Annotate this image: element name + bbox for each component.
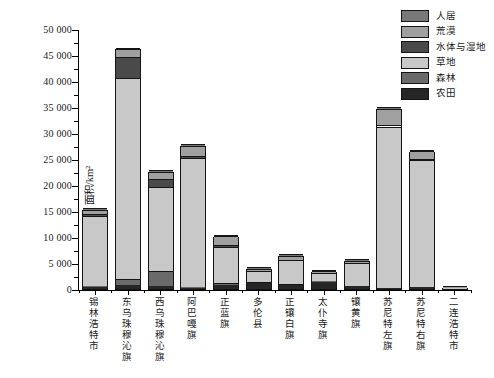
bar-segment-农田 xyxy=(410,287,434,289)
legend-label: 水体与湿地 xyxy=(436,42,486,53)
bar-segment-农田 xyxy=(312,282,336,289)
legend-label: 草地 xyxy=(436,57,456,68)
bar-segment-农田 xyxy=(214,285,238,289)
bar-segment-人居 xyxy=(443,286,467,288)
y-axis-minor-tick xyxy=(74,225,78,226)
x-category-label: 苏尼特左旗 xyxy=(381,297,392,352)
y-axis-major-tick xyxy=(72,30,78,31)
bar-segment-水体与湿地 xyxy=(377,125,401,127)
bar-正镶白旗 xyxy=(278,256,304,290)
x-axis-minor-tick xyxy=(275,290,276,293)
legend-label: 人居 xyxy=(436,11,456,22)
legend-swatch-农田 xyxy=(401,88,429,100)
bar-segment-森林 xyxy=(116,279,140,286)
y-tick-label: 20 000 xyxy=(0,180,72,192)
x-category-label: 苏尼特右旗 xyxy=(414,297,425,352)
bar-segment-水体与湿地 xyxy=(410,159,434,161)
y-axis-major-tick xyxy=(72,290,78,291)
legend-item-水体与湿地: 水体与湿地 xyxy=(401,41,486,53)
x-category-label: 正蓝旗 xyxy=(218,297,229,330)
bar-segment-人居 xyxy=(214,235,238,237)
bar-segment-荒漠 xyxy=(377,109,401,125)
y-axis-minor-tick xyxy=(74,69,78,70)
bar-segment-水体与湿地 xyxy=(181,156,205,158)
y-axis-minor-tick xyxy=(74,121,78,122)
x-axis-minor-tick xyxy=(438,290,439,293)
bar-segment-草地 xyxy=(312,273,336,281)
x-axis-minor-tick xyxy=(242,290,243,293)
bar-segment-人居 xyxy=(181,144,205,146)
legend-swatch-水体与湿地 xyxy=(401,41,429,53)
y-axis-major-tick xyxy=(72,82,78,83)
bar-segment-农田 xyxy=(149,286,173,289)
bar-segment-农田 xyxy=(345,286,369,289)
x-axis-minor-tick xyxy=(209,290,210,293)
bar-东乌珠穆沁旗 xyxy=(115,49,141,290)
y-tick-label: 45 000 xyxy=(0,50,72,62)
legend-item-荒漠: 荒漠 xyxy=(401,26,486,38)
x-category-label: 太仆寺旗 xyxy=(316,297,327,341)
bar-segment-荒漠 xyxy=(214,236,238,244)
bar-segment-人居 xyxy=(345,259,369,261)
legend-label: 森林 xyxy=(436,73,456,84)
bar-segment-农田 xyxy=(116,285,140,289)
legend-item-草地: 草地 xyxy=(401,57,486,69)
bar-segment-人居 xyxy=(410,150,434,152)
bar-太仆寺旗 xyxy=(311,272,337,290)
bar-segment-草地 xyxy=(410,160,434,287)
bar-二连浩特市 xyxy=(442,288,468,290)
x-category-label: 东乌珠穆沁旗 xyxy=(120,297,131,363)
y-axis-minor-tick xyxy=(74,277,78,278)
x-category-label: 西乌珠穆沁旗 xyxy=(153,297,164,363)
bar-镶黄旗 xyxy=(344,261,370,290)
x-axis-major-tick xyxy=(356,290,357,295)
legend-swatch-荒漠 xyxy=(401,26,429,38)
legend-item-农田: 农田 xyxy=(401,88,486,100)
legend-label: 荒漠 xyxy=(436,26,456,37)
legend-swatch-人居 xyxy=(401,10,429,22)
x-axis-major-tick xyxy=(291,290,292,295)
x-axis-major-tick xyxy=(454,290,455,295)
y-axis-major-tick xyxy=(72,264,78,265)
bar-segment-荒漠 xyxy=(279,256,303,260)
x-axis-minor-tick xyxy=(340,290,341,293)
y-axis-major-tick xyxy=(72,186,78,187)
bar-segment-荒漠 xyxy=(149,172,173,179)
x-axis-major-tick xyxy=(128,290,129,295)
legend-item-人居: 人居 xyxy=(401,10,486,22)
legend: 人居荒漠水体与湿地草地森林农田 xyxy=(401,10,486,100)
bar-segment-荒漠 xyxy=(116,49,140,57)
bar-segment-荒漠 xyxy=(345,261,369,263)
bar-segment-森林 xyxy=(149,271,173,286)
bar-segment-人居 xyxy=(116,48,140,50)
bar-segment-农田 xyxy=(247,283,271,289)
x-category-label: 镶黄旗 xyxy=(349,297,360,330)
legend-label: 农田 xyxy=(436,88,456,99)
y-tick-label: 50 000 xyxy=(0,24,72,36)
legend-item-森林: 森林 xyxy=(401,72,486,84)
bar-segment-草地 xyxy=(83,216,107,287)
bar-锡林浩特市 xyxy=(82,210,108,290)
bar-segment-水体与湿地 xyxy=(83,214,107,216)
bar-西乌珠穆沁旗 xyxy=(148,172,174,290)
bar-苏尼特右旗 xyxy=(409,152,435,290)
x-category-label: 锡林浩特市 xyxy=(87,297,98,352)
x-axis-minor-tick xyxy=(144,290,145,293)
x-axis-minor-tick xyxy=(177,290,178,293)
bar-segment-草地 xyxy=(443,288,467,289)
bar-segment-荒漠 xyxy=(312,271,336,273)
x-axis-minor-tick xyxy=(79,290,80,293)
y-axis-major-tick xyxy=(72,160,78,161)
bar-segment-农田 xyxy=(279,285,303,289)
x-axis-minor-tick xyxy=(471,290,472,293)
bar-segment-草地 xyxy=(377,127,401,288)
bar-segment-草地 xyxy=(149,187,173,272)
x-axis-minor-tick xyxy=(307,290,308,293)
x-category-label: 多伦县 xyxy=(251,297,262,330)
x-axis-major-tick xyxy=(193,290,194,295)
y-tick-label: 10 000 xyxy=(0,232,72,244)
y-axis-major-tick xyxy=(72,238,78,239)
y-axis-major-tick xyxy=(72,134,78,135)
x-axis-major-tick xyxy=(226,290,227,295)
bar-segment-人居 xyxy=(149,170,173,172)
